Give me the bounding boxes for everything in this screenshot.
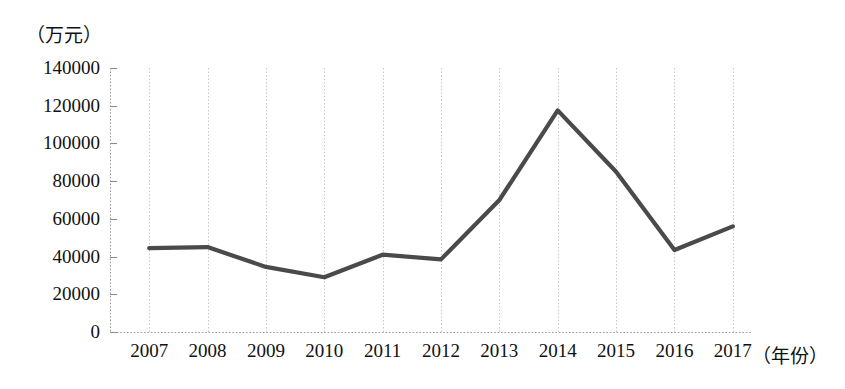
x-axis-tick-label: 2009 <box>235 341 297 361</box>
x-axis-tick-label: 2016 <box>643 341 705 361</box>
y-axis-tick-marks <box>110 69 117 333</box>
line-chart: （万元） 02000040000600008000010000012000014… <box>0 0 845 389</box>
gridlines <box>150 68 734 332</box>
x-axis-tick-label: 2015 <box>585 341 647 361</box>
plot-area <box>0 0 845 389</box>
x-axis-tick-label: 2011 <box>352 341 414 361</box>
x-axis-tick-label: 2014 <box>527 341 589 361</box>
x-axis-tick-label: 2013 <box>468 341 530 361</box>
x-axis-tick-label: 2008 <box>177 341 239 361</box>
x-axis-tick-label: 2007 <box>118 341 180 361</box>
x-axis-tick-label: 2012 <box>410 341 472 361</box>
x-axis-tick-label: 2010 <box>293 341 355 361</box>
x-axis-tick-label: 2017 <box>702 341 764 361</box>
